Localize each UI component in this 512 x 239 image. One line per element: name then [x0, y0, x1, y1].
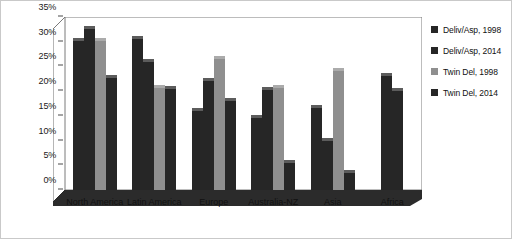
bar-slot	[106, 17, 117, 190]
bar-top-cap	[106, 75, 117, 78]
bar[interactable]	[392, 91, 403, 190]
bar[interactable]	[132, 39, 143, 190]
bar[interactable]	[311, 108, 322, 190]
bar-slot	[225, 17, 236, 190]
y-axis-tick-label: 30%	[39, 27, 56, 37]
bar-slot	[165, 17, 176, 190]
plot-frame: 0%5%10%15%20%25%30%35% North AmericaLati…	[53, 17, 422, 206]
bar[interactable]	[143, 62, 154, 191]
bar-slot	[73, 17, 84, 190]
bar-top-cap	[95, 38, 106, 41]
bar-top-cap	[214, 56, 225, 59]
bar[interactable]	[165, 89, 176, 190]
bar[interactable]	[84, 29, 95, 190]
bar[interactable]	[262, 90, 273, 190]
x-axis-category-label: Europe	[199, 197, 228, 207]
y-axis-tick-mark	[58, 40, 63, 41]
legend-item[interactable]: Deliv/Asp, 1998	[431, 19, 511, 40]
bar-top-cap	[284, 160, 295, 163]
bar[interactable]	[106, 78, 117, 190]
bar-top-cap	[203, 78, 214, 81]
x-axis-category-label: Asia	[324, 197, 342, 207]
legend-label: Twin Del, 1998	[443, 67, 498, 77]
bar-top-cap	[165, 86, 176, 89]
bar-top-cap	[344, 170, 355, 173]
bar-slot	[154, 17, 165, 190]
y-axis-tick-label: 35%	[39, 2, 56, 12]
bar-slot	[203, 17, 214, 190]
bar-top-cap	[251, 115, 262, 118]
legend-swatch-icon	[431, 26, 438, 33]
bar-slot	[143, 17, 154, 190]
bar-group: Asia	[303, 17, 363, 190]
bar[interactable]	[73, 41, 84, 190]
bar-groups: North AmericaLatin AmericaEuropeAustrali…	[65, 17, 422, 190]
chart-legend: Deliv/Asp, 1998Deliv/Asp, 2014Twin Del, …	[431, 19, 511, 103]
bar-group: North America	[65, 17, 125, 190]
bar-slot	[381, 17, 392, 190]
legend-swatch-icon	[431, 68, 438, 75]
chart-screenshot: 0%5%10%15%20%25%30%35% North AmericaLati…	[0, 0, 512, 239]
legend-item[interactable]: Twin Del, 2014	[431, 82, 511, 103]
bar[interactable]	[154, 88, 165, 190]
bar[interactable]	[333, 71, 344, 190]
bar[interactable]	[214, 59, 225, 190]
bar[interactable]	[192, 111, 203, 190]
bar[interactable]	[251, 118, 262, 190]
bar[interactable]	[95, 41, 106, 190]
y-axis-tick-mark	[58, 139, 63, 140]
bar-top-cap	[381, 73, 392, 76]
y-axis-tick-mark	[58, 65, 63, 66]
bar-slot	[262, 17, 273, 190]
bar[interactable]	[273, 88, 284, 190]
bar-slot	[322, 17, 333, 190]
bar-top-cap	[322, 138, 333, 141]
legend-swatch-icon	[431, 89, 438, 96]
bar-top-cap	[311, 105, 322, 108]
y-axis-tick-label: 20%	[39, 76, 56, 86]
y-axis-tick-mark	[58, 164, 63, 165]
y-axis-tick-label: 25%	[39, 51, 56, 61]
y-axis-tick-mark	[58, 16, 63, 17]
bar-group: Europe	[184, 17, 244, 190]
bar-top-cap	[262, 87, 273, 90]
legend-label: Deliv/Asp, 1998	[443, 25, 501, 35]
bar-slot	[344, 17, 355, 190]
y-axis-tick-label: 0%	[43, 175, 56, 185]
bar-slot	[392, 17, 403, 190]
legend-label: Twin Del, 2014	[443, 88, 498, 98]
bar[interactable]	[225, 101, 236, 190]
x-axis-category-label: Latin America	[127, 197, 182, 207]
bar-top-cap	[333, 68, 344, 71]
y-axis-tick-mark	[58, 189, 63, 190]
bar-top-cap	[154, 85, 165, 88]
bar-slot	[192, 17, 203, 190]
bar-slot	[311, 17, 322, 190]
y-axis-tick-label: 15%	[39, 101, 56, 111]
y-axis-tick-label: 10%	[39, 126, 56, 136]
bar-slot	[214, 17, 225, 190]
legend-item[interactable]: Deliv/Asp, 2014	[431, 40, 511, 61]
plot-inner-area: 0%5%10%15%20%25%30%35% North AmericaLati…	[65, 17, 422, 190]
bar-top-cap	[192, 108, 203, 111]
bar-group: Africa	[363, 17, 423, 190]
bar-slot	[333, 17, 344, 190]
bar[interactable]	[344, 173, 355, 190]
bar-top-cap	[143, 59, 154, 62]
bar[interactable]	[284, 163, 295, 190]
x-axis-category-label: Africa	[381, 197, 404, 207]
bar-top-cap	[132, 36, 143, 39]
bar-top-cap	[392, 88, 403, 91]
legend-item[interactable]: Twin Del, 1998	[431, 61, 511, 82]
bar[interactable]	[381, 76, 392, 190]
bar-slot	[251, 17, 262, 190]
bar-slot	[84, 17, 95, 190]
bar-slot	[132, 17, 143, 190]
bar-top-cap	[273, 85, 284, 88]
y-axis-tick-label: 5%	[43, 150, 56, 160]
y-axis-tick-mark	[58, 114, 63, 115]
bar[interactable]	[203, 81, 214, 190]
bar-slot	[273, 17, 284, 190]
x-axis-category-label: North America	[66, 197, 123, 207]
bar[interactable]	[322, 141, 333, 190]
